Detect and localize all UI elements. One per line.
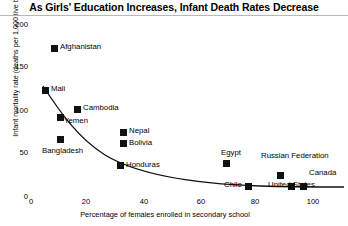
data-point-cambodia[interactable]: [74, 106, 81, 113]
x-axis-tick-60: 60: [189, 197, 213, 206]
data-label-bangladesh: Bangladesh: [42, 147, 83, 156]
data-label-bolivia: Bolivia: [129, 139, 152, 148]
data-point-egypt[interactable]: [223, 160, 230, 167]
data-point-honduras[interactable]: [117, 162, 124, 169]
data-label-egypt: Egypt: [221, 149, 241, 158]
data-point-yemen[interactable]: [57, 114, 64, 121]
data-label-honduras: Honduras: [126, 161, 160, 170]
data-point-russian-federation[interactable]: [277, 172, 284, 179]
y-axis-tick-150: 150: [2, 62, 28, 71]
y-axis-tick-200: 200: [2, 20, 28, 29]
x-axis-tick-20: 20: [74, 197, 98, 206]
x-axis-tick-40: 40: [132, 197, 156, 206]
data-point-canada[interactable]: [300, 183, 307, 190]
data-point-nepal[interactable]: [120, 129, 127, 136]
x-axis-tick-0: 0: [19, 197, 43, 206]
data-label-chile: Chile: [224, 181, 242, 190]
data-label-russian-federation: Russian Federation: [261, 152, 329, 161]
scatter-plot-area: Infant mortality rate (deaths per 1,000 …: [0, 0, 348, 226]
x-axis-tick-80: 80: [243, 197, 267, 206]
trend-curve: [0, 0, 348, 226]
data-label-united-states: United States: [268, 181, 302, 190]
data-point-mali[interactable]: [42, 87, 49, 94]
y-axis-tick-50: 50: [2, 148, 28, 157]
data-label-mali: Mali: [51, 85, 65, 94]
chart-page: As Girls' Education Increases, Infant De…: [0, 0, 348, 226]
data-label-yemen: Yemen: [64, 117, 88, 126]
x-axis-tick-100: 100: [301, 197, 325, 206]
data-label-nepal: Nepal: [129, 127, 149, 136]
data-point-chile[interactable]: [245, 183, 252, 190]
data-point-afghanistan[interactable]: [51, 45, 58, 52]
data-label-cambodia: Cambodia: [83, 104, 119, 113]
x-axis-label: Percentage of females enrolled in second…: [30, 210, 300, 219]
data-point-bangladesh[interactable]: [57, 136, 64, 143]
data-point-bolivia[interactable]: [120, 140, 127, 147]
y-axis-tick-100: 100: [2, 106, 28, 115]
data-label-afghanistan: Afghanistan: [60, 43, 101, 52]
data-label-canada: Canada: [309, 169, 336, 178]
